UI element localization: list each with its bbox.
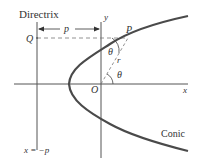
y-axis-label: y <box>103 12 108 22</box>
p-distance-label: p <box>63 23 69 34</box>
radius-line-r <box>101 38 128 84</box>
conic-directrix-diagram: Directrix y x Q P O p r θ θ Conic x = −p <box>0 0 197 166</box>
point-P-label: P <box>125 24 132 35</box>
point-Q-label: Q <box>26 33 34 44</box>
directrix-equation-label: x = −p <box>23 145 50 155</box>
radius-r-label: r <box>117 55 121 65</box>
origin-O-label: O <box>91 84 98 95</box>
point-Q-marker <box>36 37 38 39</box>
directrix-label: Directrix <box>19 8 59 20</box>
conic-label: Conic <box>161 128 185 139</box>
theta-bottom-label: θ <box>117 69 122 80</box>
x-axis-label: x <box>182 85 187 95</box>
theta-top-label: θ <box>108 46 113 57</box>
theta-angle-arc-bottom <box>107 74 113 84</box>
